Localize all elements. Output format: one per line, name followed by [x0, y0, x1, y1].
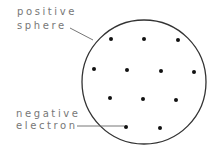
electrons-group — [92, 37, 196, 130]
label-sphere: sphere — [17, 20, 67, 32]
label-electron: electron — [16, 120, 78, 132]
electron-dot — [124, 125, 128, 129]
electron-dot — [159, 69, 163, 73]
label-negative: negative — [16, 108, 81, 120]
electron-dot — [141, 97, 145, 101]
electron-dot — [176, 38, 180, 42]
electron-dot — [158, 126, 162, 130]
electron-dot — [109, 37, 113, 41]
electron-dot — [142, 37, 146, 41]
electron-dot — [92, 67, 96, 71]
electron-dot — [125, 68, 129, 72]
label-positive: positive — [17, 6, 77, 18]
electron-dot — [192, 70, 196, 74]
electron-dot — [174, 98, 178, 102]
electron-dot — [108, 96, 112, 100]
sphere-leader-line — [70, 28, 93, 40]
